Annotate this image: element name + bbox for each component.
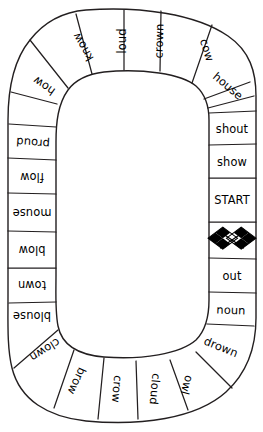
cell-label-shout: shout — [216, 122, 249, 136]
cell-label-crown: crown — [151, 23, 166, 58]
cell-label-start: START — [214, 193, 250, 207]
cell-label-mouse: mouse — [13, 206, 52, 220]
checkered-flags-icon — [208, 227, 256, 249]
cell-label-show: show — [217, 155, 247, 169]
cell-noun[interactable]: noun — [216, 302, 246, 317]
cell-label-know: know — [69, 30, 96, 63]
cell-owl[interactable]: owl — [178, 374, 197, 397]
cell-label-noun: noun — [216, 302, 246, 317]
cell-loud[interactable]: loud — [115, 29, 129, 54]
cell-drown[interactable]: drown — [202, 334, 240, 360]
cell-label-brow: brow — [65, 365, 90, 397]
board-track: house cow shout show START — [0, 0, 263, 432]
cell-crown[interactable]: crown — [151, 23, 166, 58]
cell-clown[interactable]: clown — [27, 335, 63, 365]
cell-label-owl: owl — [178, 374, 197, 397]
cell-label-blouse: blouse — [13, 309, 51, 323]
cell-label-clown: clown — [27, 335, 63, 365]
cell-finish[interactable] — [208, 227, 256, 249]
cell-label-loud: loud — [115, 29, 129, 54]
cell-town[interactable]: town — [18, 278, 46, 292]
cell-label-out: out — [223, 269, 242, 283]
cell-blouse[interactable]: blouse — [13, 309, 51, 323]
cell-label-flow: flow — [20, 170, 44, 184]
cell-proud[interactable]: proud — [16, 135, 50, 151]
cell-start[interactable]: START — [214, 193, 250, 207]
cell-cloud[interactable]: cloud — [147, 373, 164, 405]
cell-how[interactable]: how — [30, 73, 58, 98]
cell-out[interactable]: out — [223, 269, 242, 283]
cell-brow[interactable]: brow — [65, 365, 90, 397]
cell-label-town: town — [18, 278, 46, 292]
cell-mouse[interactable]: mouse — [13, 206, 52, 220]
cell-label-proud: proud — [16, 135, 50, 151]
board-game-container: house cow shout show START — [0, 0, 263, 432]
cell-shout[interactable]: shout — [216, 122, 249, 136]
track-inner-edge — [56, 71, 209, 358]
cell-label-drown: drown — [202, 334, 240, 360]
cell-know[interactable]: know — [69, 30, 96, 63]
cell-show[interactable]: show — [217, 155, 247, 169]
cell-flow[interactable]: flow — [20, 170, 44, 184]
cell-label-how: how — [30, 73, 58, 98]
cell-crow[interactable]: crow — [109, 375, 125, 404]
cell-label-crow: crow — [109, 375, 125, 404]
cell-label-cloud: cloud — [147, 373, 164, 405]
cell-label-blow: blow — [18, 243, 45, 257]
cell-blow[interactable]: blow — [18, 243, 45, 257]
